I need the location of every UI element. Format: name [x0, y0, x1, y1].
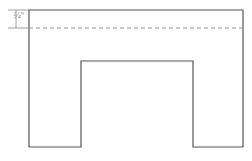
diagram-canvas	[0, 0, 252, 161]
part-outline	[29, 10, 243, 147]
dimension-label: ¼"	[13, 12, 24, 21]
